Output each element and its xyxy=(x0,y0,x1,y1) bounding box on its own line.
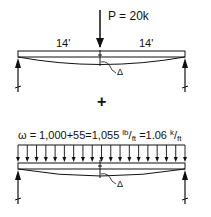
distributed-load-label: ω = 1,000+55=1,055 lb/ft =1.06 k/ft xyxy=(18,129,182,143)
deflection-label: Δ xyxy=(117,180,123,189)
point-load-beam xyxy=(15,10,188,92)
deflection-leader xyxy=(101,62,116,73)
deflected-shape xyxy=(18,57,185,65)
point-load-label: P = 20k xyxy=(108,10,149,22)
beam xyxy=(18,51,185,57)
right-span-label: 14' xyxy=(139,38,153,49)
deflected-shape xyxy=(18,169,185,176)
distributed-load-arrows-icon xyxy=(16,145,187,162)
deflection-label: Δ xyxy=(117,68,123,77)
deflection-leader xyxy=(101,174,116,184)
left-span-label: 14' xyxy=(56,38,70,49)
plus-symbol: + xyxy=(97,94,106,110)
distributed-load-beam xyxy=(15,145,188,204)
